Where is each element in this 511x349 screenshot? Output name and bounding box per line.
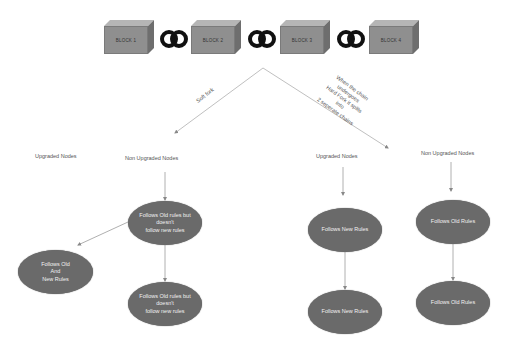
block-3-label: BLOCK 3 <box>280 26 324 54</box>
block-1: BLOCK 1 <box>104 20 154 54</box>
hard-upgraded-nodes-label: Upgraded Nodes <box>316 153 358 159</box>
chain-link-icon <box>336 28 366 50</box>
hard-non-upgraded-bottom-node: Follows Old Rules <box>416 281 490 325</box>
soft-fork-left-node: Follows Old And New Rules <box>18 250 93 294</box>
block-side <box>324 20 330 54</box>
block-2-label: BLOCK 2 <box>191 26 235 54</box>
hard-non-upgraded-nodes-label: Non Upgraded Nodes <box>421 150 474 156</box>
block-side <box>235 20 241 54</box>
block-1-label: BLOCK 1 <box>104 26 148 54</box>
soft-upgraded-nodes-label: Upgraded Nodes <box>35 153 77 159</box>
block-4: BLOCK 4 <box>369 20 419 54</box>
hard-upgraded-top-node: Follows New Rules <box>308 208 382 252</box>
hard-upgraded-bottom-node: Follows New Rules <box>308 290 382 334</box>
chain-link-icon <box>247 28 277 50</box>
block-4-label: BLOCK 4 <box>369 26 413 54</box>
block-2: BLOCK 2 <box>191 20 241 54</box>
chain-link-icon <box>159 28 189 50</box>
soft-fork-bottom-node: Follows Old rules but doesn't follow new… <box>128 282 202 326</box>
block-3: BLOCK 3 <box>280 20 330 54</box>
soft-non-upgraded-nodes-label: Non Upgraded Nodes <box>125 155 178 161</box>
hard-non-upgraded-top-node: Follows Old Rules <box>416 200 490 244</box>
block-side <box>148 20 154 54</box>
block-side <box>413 20 419 54</box>
soft-fork-top-node: Follows Old rules but doesn't follow new… <box>128 201 202 245</box>
